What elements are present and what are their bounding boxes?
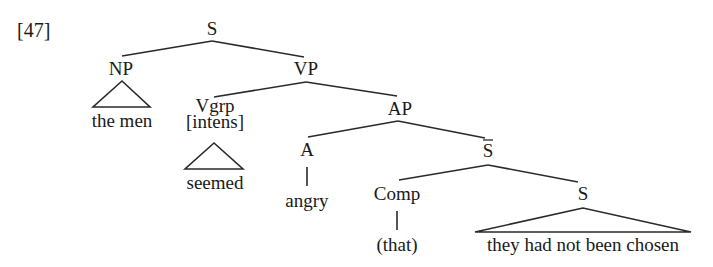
edge-vp-ap [306,82,397,96]
terminal-they-had-not-been-chosen: they had not been chosen [487,234,680,255]
example-number: [47] [17,19,50,41]
triangle-np [93,81,150,107]
terminal-angry: angry [285,190,329,211]
edge-ap-a [308,121,398,137]
terminal-that: (that) [376,234,417,256]
edge-sbar-comp [399,165,488,180]
triangle-vgrp [185,143,243,169]
node-sbar: S [483,140,494,161]
edge-s-vp [212,41,304,57]
node-s-embedded: S [578,183,589,204]
triangle-s-embedded [475,208,691,232]
terminal-the-men: the men [92,110,153,131]
node-comp: Comp [374,183,420,204]
node-np: NP [109,58,133,79]
feature-intens: [intens] [186,111,244,132]
terminal-seemed: seemed [187,172,244,193]
node-a: A [300,139,314,160]
edge-s-np [122,41,212,56]
node-s-root: S [207,18,218,39]
syntax-tree-diagram: [47] S NP the men VP Vgrp [intens] seeme… [0,0,713,267]
edge-ap-sbar [398,121,485,138]
edge-sbar-s [488,165,578,182]
node-vp: VP [294,58,318,79]
node-ap: AP [388,98,412,119]
